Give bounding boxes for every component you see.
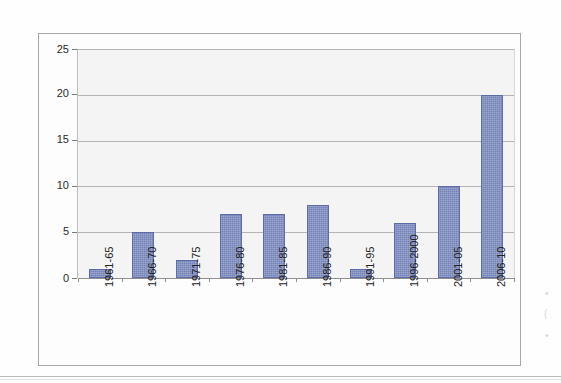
- x-axis-tick: [165, 278, 166, 282]
- y-axis-tick-label: 5: [39, 226, 69, 237]
- gridline-20: [78, 95, 514, 96]
- y-axis-tick-label: 20: [39, 88, 69, 99]
- x-axis-label-1996-2000: 1996-2000: [409, 234, 420, 287]
- x-axis-label-1961-65: 1961-65: [104, 247, 115, 287]
- x-axis-label-2006-10: 2006-10: [496, 247, 507, 287]
- x-axis-tick: [340, 278, 341, 282]
- x-axis-tick: [514, 278, 515, 282]
- x-axis-tick: [122, 278, 123, 282]
- x-axis-label-1976-80: 1976-80: [235, 247, 246, 287]
- x-axis-label-1986-90: 1986-90: [322, 247, 333, 287]
- x-axis-label-2001-05: 2001-05: [453, 247, 464, 287]
- x-axis-tick: [78, 278, 79, 282]
- scan-artifact-mark: (: [544, 308, 547, 319]
- x-axis-label-1966-70: 1966-70: [147, 247, 158, 287]
- x-axis-tick: [209, 278, 210, 282]
- x-axis-label-1981-85: 1981-85: [278, 247, 289, 287]
- x-axis-label-1971-75: 1971-75: [191, 247, 202, 287]
- page-scan-rule-secondary: [0, 379, 561, 380]
- x-axis-tick: [296, 278, 297, 282]
- gridline-25: [78, 49, 514, 50]
- y-axis-tick-label: 25: [39, 44, 69, 55]
- y-axis-tick-label: 0: [39, 273, 69, 284]
- y-axis-tick-label: 15: [39, 134, 69, 145]
- page-scan-rule: [0, 376, 561, 377]
- plot-area: [77, 49, 515, 278]
- y-axis-tick-label: 10: [39, 180, 69, 191]
- x-axis-tick: [470, 278, 471, 282]
- gridline-15: [78, 141, 514, 142]
- x-axis-tick: [427, 278, 428, 282]
- x-axis-label-1991-95: 1991-95: [365, 247, 376, 287]
- scan-artifact-mark: •: [545, 288, 548, 299]
- scan-artifact-mark: •: [545, 330, 548, 341]
- y-axis-tick: [72, 278, 77, 279]
- chart-frame: 25 20 15 10 5 0: [38, 33, 521, 366]
- x-axis-tick: [252, 278, 253, 282]
- x-axis-tick: [383, 278, 384, 282]
- x-axis-labels: 1961-65 1966-70 1971-75 1976-80 1981-85 …: [77, 283, 513, 363]
